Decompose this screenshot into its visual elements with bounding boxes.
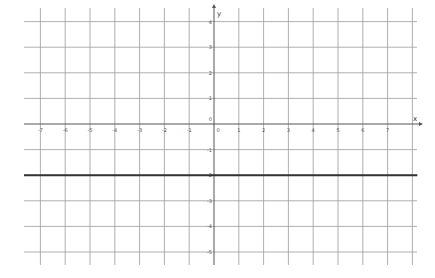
y-tick-label: 2 — [209, 70, 212, 76]
x-tick-label: -5 — [88, 127, 93, 133]
y-tick-label: -4 — [207, 223, 212, 229]
x-tick-label: -7 — [38, 127, 43, 133]
y-tick-label: 1 — [209, 95, 212, 101]
y-tick-label: 0 — [209, 116, 212, 122]
x-tick-label: 4 — [312, 127, 315, 133]
y-tick-label: -3 — [207, 198, 212, 204]
x-axis-arrow-icon — [419, 122, 423, 126]
x-tick-label: 0 — [216, 127, 219, 133]
x-tick-label: 7 — [386, 127, 389, 133]
y-axis-arrow-icon — [212, 4, 216, 8]
y-axis-label: y — [217, 10, 221, 18]
grid-lines — [24, 8, 417, 265]
x-tick-label: 5 — [336, 127, 339, 133]
x-axis-label: x — [413, 115, 417, 123]
x-tick-label: 1 — [237, 127, 240, 133]
x-tick-label: 2 — [262, 127, 265, 133]
coordinate-plane: -7-6-5-4-3-2-10123456743210-1-2-3-4-5 x … — [0, 0, 435, 278]
x-tick-label: -3 — [137, 127, 142, 133]
x-tick-label: -6 — [63, 127, 68, 133]
x-tick-label: -1 — [187, 127, 192, 133]
y-tick-label: -5 — [207, 249, 212, 255]
y-tick-label: -1 — [207, 147, 212, 153]
y-tick-label: 3 — [209, 44, 212, 50]
x-tick-label: -2 — [162, 127, 167, 133]
x-tick-label: -4 — [112, 127, 117, 133]
x-tick-label: 6 — [361, 127, 364, 133]
x-tick-label: 3 — [287, 127, 290, 133]
y-tick-label: 4 — [209, 19, 212, 25]
